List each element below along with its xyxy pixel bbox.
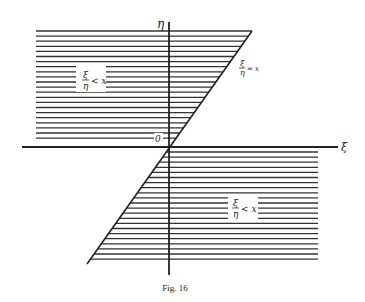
lower-hatched-region (91, 152, 319, 259)
boundary-line-label: ξ η = x (239, 59, 259, 77)
svg-text:η: η (83, 81, 89, 91)
figure-caption: Fig. 16 (162, 283, 188, 293)
upper-hatched-region (36, 31, 252, 138)
svg-text:= x: = x (247, 65, 259, 73)
svg-text:η: η (240, 68, 245, 77)
figure-16-diagram: η ξ 0 ξ η = x ξ η < x ξ η < x Fig. 16 (0, 0, 365, 302)
xi-axis-label: ξ (341, 141, 348, 154)
svg-text:ξ: ξ (240, 59, 245, 68)
eta-axis-label: η (157, 17, 165, 31)
svg-text:< x: < x (91, 76, 106, 86)
origin-label: 0 (155, 134, 161, 144)
svg-text:< x: < x (241, 204, 256, 214)
svg-text:η: η (233, 209, 239, 219)
